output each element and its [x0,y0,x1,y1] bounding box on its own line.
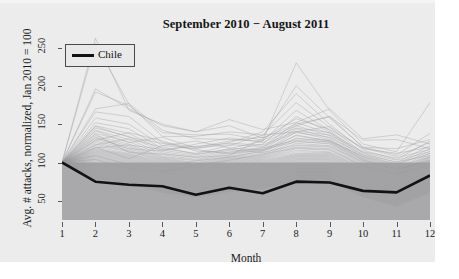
chart-figure: September 2010 − August 2011 Avg. # atta… [0,0,459,279]
x-tick-label: 5 [185,228,207,239]
x-tick-label: 3 [118,228,140,239]
x-tick-label: 1 [51,228,73,239]
x-tick-label: 7 [252,228,274,239]
x-tick-mark [229,222,230,227]
panel-top-edge [0,0,435,3]
x-tick-label: 11 [386,228,408,239]
x-tick-mark [196,222,197,227]
x-tick-mark [430,222,431,227]
x-tick-label: 10 [352,228,374,239]
y-tick-mark [58,201,62,202]
chart-title: September 2010 − August 2011 [60,17,432,32]
x-tick-mark [397,222,398,227]
x-tick-label: 9 [319,228,341,239]
legend-box[interactable]: Chile [65,44,135,67]
y-tick-mark [58,124,62,125]
legend-line-swatch [72,54,94,57]
x-tick-mark [263,222,264,227]
x-tick-mark [95,222,96,227]
y-tick-label: 200 [36,70,47,96]
x-axis-label: Month [60,252,432,264]
x-tick-mark [129,222,130,227]
y-tick-label: 150 [36,109,47,135]
y-tick-mark [58,163,62,164]
x-tick-mark [62,222,63,227]
y-tick-label: 250 [36,32,47,58]
x-tick-mark [162,222,163,227]
plot-area: 50100150200250 123456789101112 Chile [62,36,430,220]
x-tick-label: 6 [218,228,240,239]
y-tick-mark [58,48,62,49]
x-tick-label: 4 [151,228,173,239]
x-tick-label: 12 [419,228,441,239]
x-tick-mark [296,222,297,227]
x-tick-label: 8 [285,228,307,239]
y-axis-label: Avg. # attacks, normalized, Jan 2010 = 1… [21,23,33,233]
x-tick-mark [330,222,331,227]
legend-label-chile: Chile [98,48,122,60]
y-tick-label: 50 [36,185,47,211]
x-tick-label: 2 [84,228,106,239]
y-tick-label: 100 [36,147,47,173]
x-tick-mark [363,222,364,227]
y-tick-mark [58,86,62,87]
